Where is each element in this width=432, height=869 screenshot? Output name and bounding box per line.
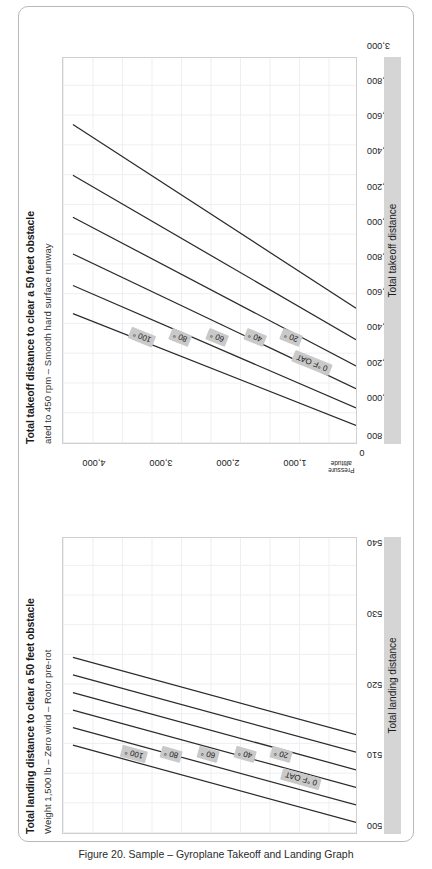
curve-20 <box>73 286 356 408</box>
ytick-4000: 4,000 <box>83 458 106 468</box>
landing-xtick-530: 530 <box>367 609 382 619</box>
landing-xtick-500: 500 <box>367 821 382 831</box>
ytick-0: 0 <box>359 449 364 459</box>
landing-subtitle: Weight 1,500 lb – Zero wind – Rotor pre-… <box>42 494 53 834</box>
landing-axis-title: Total landing distance <box>384 537 401 834</box>
curve-80 <box>73 675 356 752</box>
curve-60 <box>73 217 356 366</box>
landing-title: Total landing distance to clear a 50 fee… <box>24 494 36 834</box>
ytick-3000: 3,000 <box>150 458 173 468</box>
landing-curves <box>63 538 356 833</box>
curve-80 <box>73 175 356 339</box>
landing-xtick-520: 520 <box>367 680 382 690</box>
figure-page: Total landing distance to clear a 50 fee… <box>0 0 432 869</box>
rotated-figure-stage: Total landing distance to clear a 50 fee… <box>18 6 414 842</box>
landing-plot-area: 0 °F OAT 20 ° 40 ° 60 ° 80 ° 100 ° <box>62 537 357 834</box>
takeoff-curves <box>63 58 356 443</box>
panel-landing: Total landing distance to clear a 50 fee… <box>18 494 414 834</box>
takeoff-axis-title: Total takeoff distance <box>384 57 401 444</box>
landing-xtick-510: 510 <box>367 751 382 761</box>
curve-100 <box>73 124 356 308</box>
pressure-altitude-label: Pressure altitude <box>324 460 358 474</box>
curve-20 <box>73 728 356 805</box>
panel-takeoff: Total takeoff distance to clear a 50 fee… <box>18 14 414 444</box>
takeoff-xtick-3000: 3,000 <box>367 41 390 51</box>
takeoff-subtitle: ated to 450 rpm – Smooth hard surface ru… <box>42 14 53 444</box>
takeoff-xtick-800: 800 <box>367 431 382 441</box>
takeoff-plot-area: 0 °F OAT 20 ° 40 ° 60 ° 80 ° 100 ° <box>62 57 357 444</box>
pressure-altitude-axis: 0 1,000 2,000 3,000 4,000 Pressure altit… <box>62 444 357 494</box>
ytick-2000: 2,000 <box>217 458 240 468</box>
curve-100 <box>73 657 356 734</box>
takeoff-title: Total takeoff distance to clear a 50 fee… <box>24 14 36 444</box>
figure-caption: Figure 20. Sample – Gyroplane Takeoff an… <box>0 848 432 860</box>
landing-xtick-540: 540 <box>367 539 382 549</box>
ytick-1000: 1,000 <box>284 458 307 468</box>
